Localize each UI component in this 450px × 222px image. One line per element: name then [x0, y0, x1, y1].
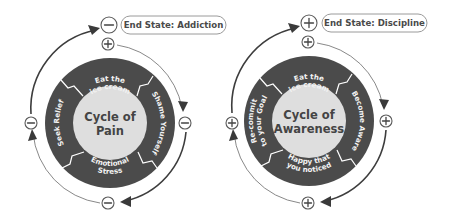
cycles-diagram: Eat the ice cream Shame Yourself Emotion…: [0, 0, 450, 222]
cycle-title-line2: Awareness: [274, 122, 345, 136]
plus-icon: [302, 36, 314, 48]
cycle-of-pain: Eat the ice cream Shame Yourself Emotion…: [25, 16, 226, 209]
end-minus-icon: [101, 17, 117, 33]
end-state-label: End State: Addiction: [124, 20, 224, 30]
cycle-title-line2: Pain: [96, 124, 124, 138]
plus-icon-left: [226, 117, 238, 129]
cycle-title-line1: Cycle of: [84, 110, 136, 124]
plus-icon-bottom: [302, 197, 314, 209]
cycle-of-awareness: Eat the ice cream Become Aware Happy tha…: [226, 14, 427, 209]
arrowhead: [178, 101, 188, 112]
minus-icon-right: [179, 117, 191, 129]
end-state-label: End State: Discipline: [324, 18, 425, 28]
cycle-title-line1: Cycle of: [283, 108, 335, 122]
plus-icon: [102, 38, 114, 50]
arrowhead: [28, 129, 37, 141]
segment-2-line2: Stress: [97, 166, 123, 177]
arrowhead: [288, 23, 300, 33]
plus-icon-right: [380, 115, 392, 127]
minus-icon-bottom: [102, 197, 114, 209]
minus-icon-left: [25, 117, 37, 129]
arrowhead: [120, 196, 131, 207]
arrowhead: [229, 129, 238, 141]
arrowhead: [88, 25, 100, 35]
arrowhead: [320, 196, 331, 207]
arrowhead: [379, 99, 389, 110]
end-plus-icon: [301, 15, 317, 31]
